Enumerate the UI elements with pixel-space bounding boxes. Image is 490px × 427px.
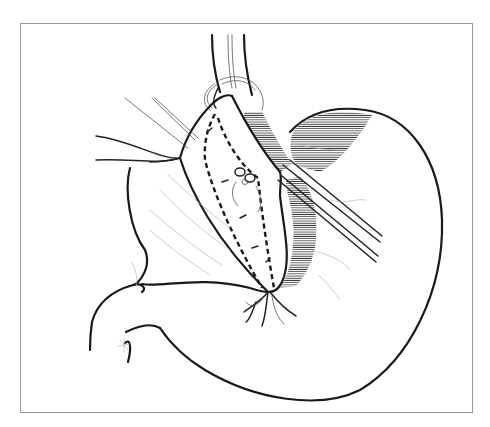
- encircling-band: [204, 77, 263, 110]
- hatched-region-upper: [244, 112, 292, 172]
- lymph-node-cluster: [232, 168, 260, 212]
- stomach-illustration: [0, 0, 490, 427]
- vessel-branches: [244, 292, 296, 326]
- esophagus: [212, 35, 252, 95]
